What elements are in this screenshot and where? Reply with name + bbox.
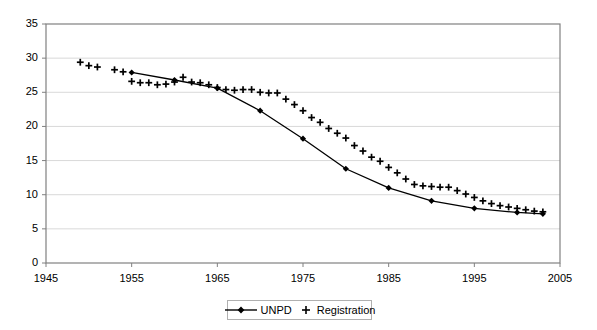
y-axis-tick-label: 20: [8, 120, 38, 131]
x-axis-tick-label: 1965: [197, 273, 237, 284]
x-axis-tick-label: 1985: [369, 273, 409, 284]
chart-legend: UNPD Registration: [227, 300, 372, 320]
y-axis-tick-label: 25: [8, 86, 38, 97]
legend-plus-icon: [298, 304, 314, 316]
chart-container: 05101520253035 1945195519651975198519952…: [0, 0, 597, 330]
tick-marks: [42, 24, 560, 267]
y-axis-tick-label: 15: [8, 155, 38, 166]
x-axis-tick-label: 2005: [540, 273, 580, 284]
y-axis-tick-label: 0: [8, 257, 38, 268]
legend-item-registration: Registration: [298, 304, 376, 316]
x-axis-tick-label: 1945: [26, 273, 66, 284]
legend-label-registration: Registration: [317, 305, 376, 316]
legend-label-unpd: UNPD: [261, 305, 292, 316]
y-axis-tick-label: 30: [8, 52, 38, 63]
plot-frame: [46, 24, 560, 263]
x-axis-tick-label: 1975: [283, 273, 323, 284]
legend-item-unpd: UNPD: [224, 305, 292, 316]
x-axis-tick-label: 1995: [454, 273, 494, 284]
y-axis-tick-label: 10: [8, 189, 38, 200]
data-series: [77, 59, 546, 217]
y-axis-tick-label: 5: [8, 223, 38, 234]
y-axis-tick-label: 35: [8, 18, 38, 29]
x-axis-tick-label: 1955: [112, 273, 152, 284]
legend-line-diamond-icon: [224, 305, 258, 315]
